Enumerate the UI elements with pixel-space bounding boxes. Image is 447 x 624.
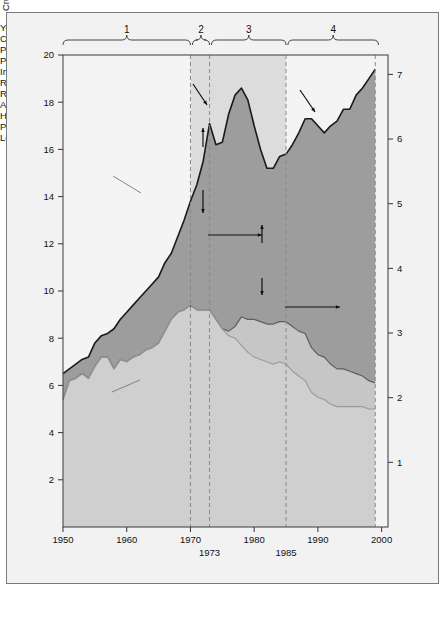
chart-plot: 2468101214161820123456719501960197019801… (0, 0, 447, 624)
y-right-tick-label: 1 (397, 457, 402, 468)
y-right-tick-label: 5 (397, 198, 402, 209)
y-left-tick-label: 6 (49, 380, 54, 391)
x-tick-label: 1960 (116, 534, 137, 545)
y-right-tick-label: 2 (397, 392, 402, 403)
y-right-tick-label: 3 (397, 327, 402, 338)
x-extra-tick-label-1973: 1973 (199, 547, 220, 558)
period-brace-3 (211, 35, 286, 45)
x-tick-label: 1980 (244, 534, 265, 545)
y-right-tick-label: 7 (397, 69, 402, 80)
period-brace-label-4: 4 (330, 24, 336, 35)
y-left-tick-label: 4 (49, 427, 54, 438)
y-right-tick-label: 6 (397, 133, 402, 144)
y-left-tick-label: 2 (49, 474, 54, 485)
period-brace-label-2: 2 (198, 24, 204, 35)
y-left-tick-label: 10 (43, 285, 54, 296)
y-left-tick-label: 20 (43, 49, 54, 60)
x-extra-tick-label-1985: 1985 (275, 547, 296, 558)
y-right-axis-title: Crude oil (billions of barrels per year) (0, 0, 11, 11)
y-left-tick-label: 14 (43, 191, 54, 202)
x-tick-label: 1990 (307, 534, 328, 545)
period-brace-2 (192, 35, 209, 45)
figure: 2468101214161820123456719501960197019801… (0, 0, 447, 624)
period-brace-label-1: 1 (124, 24, 130, 35)
y-left-tick-label: 8 (49, 333, 54, 344)
y-left-tick-label: 16 (43, 144, 54, 155)
period-brace-label-3: 3 (246, 24, 252, 35)
y-left-tick-label: 12 (43, 238, 54, 249)
y-left-tick-label: 18 (43, 97, 54, 108)
x-tick-label: 2000 (371, 534, 392, 545)
period-brace-4 (288, 35, 378, 45)
x-tick-label: 1950 (52, 534, 73, 545)
y-right-tick-label: 4 (397, 263, 402, 274)
period-brace-1 (63, 35, 190, 45)
x-tick-label: 1970 (180, 534, 201, 545)
